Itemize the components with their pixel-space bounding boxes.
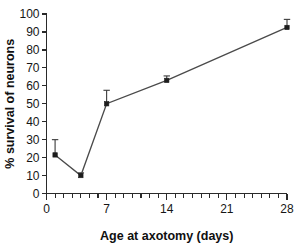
data-point [53,153,57,157]
chart-figure: 0102030405060708090100 07142128 Age at a… [0,0,304,249]
x-axis-title: Age at axotomy (days) [100,229,233,243]
y-axis-tick-labels: 0102030405060708090100 [19,7,39,201]
y-tick-label: 30 [26,133,40,147]
x-axis-tick-labels: 07142128 [43,202,294,216]
data-point [165,78,169,82]
data-point [79,173,83,177]
y-tick-label: 60 [26,79,40,93]
y-tick-label: 10 [26,169,40,183]
y-tick-label: 100 [19,7,39,21]
x-tick-label: 14 [160,202,174,216]
x-tick-label: 0 [43,202,50,216]
data-series-line [55,27,287,175]
x-tick-label: 28 [280,202,294,216]
y-tick-label: 0 [33,187,40,201]
y-tick-label: 20 [26,151,40,165]
chart-canvas: 0102030405060708090100 07142128 Age at a… [0,0,304,249]
y-tick-label: 50 [26,97,40,111]
x-tick-label: 21 [220,202,234,216]
y-axis-title: % survival of neurons [3,39,17,169]
x-tick-label: 7 [103,202,110,216]
data-point [285,25,289,29]
y-tick-label: 70 [26,61,40,75]
y-tick-label: 40 [26,115,40,129]
x-axis-major-ticks [47,194,288,201]
data-point [104,102,108,106]
y-tick-label: 90 [26,25,40,39]
error-bars [52,19,290,175]
y-tick-label: 80 [26,43,40,57]
